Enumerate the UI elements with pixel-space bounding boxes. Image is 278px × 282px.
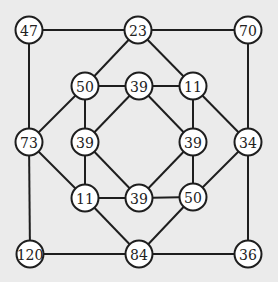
node-label: 39 (76, 135, 94, 151)
node-label: 73 (20, 135, 38, 151)
node-label: 120 (17, 247, 44, 263)
node-outer-tm: 23 (125, 17, 152, 44)
node-label: 39 (130, 79, 148, 95)
node-label: 50 (184, 190, 202, 206)
node-label: 36 (239, 247, 257, 263)
node-outer-bl: 120 (17, 241, 44, 268)
node-outer-tl: 47 (16, 17, 43, 44)
node-label: 47 (20, 23, 38, 39)
node-label: 39 (184, 135, 202, 151)
node-inner-ml: 39 (72, 129, 99, 156)
node-inner-br: 50 (180, 184, 207, 211)
node-outer-tr: 70 (235, 17, 262, 44)
node-label: 11 (184, 79, 202, 95)
edge-outer-ml-outer-bl (29, 142, 30, 254)
node-label: 11 (76, 191, 94, 207)
node-outer-bm: 84 (126, 241, 153, 268)
node-inner-bl: 11 (72, 185, 99, 212)
node-label: 34 (239, 135, 257, 151)
node-label: 70 (239, 23, 257, 39)
node-inner-mr: 39 (180, 129, 207, 156)
node-inner-bm: 39 (126, 185, 153, 212)
node-inner-tm: 39 (126, 73, 153, 100)
number-graph-diagram: 472370733412084365039113939113950 (0, 0, 278, 282)
node-outer-br: 36 (235, 241, 262, 268)
node-label: 50 (76, 79, 94, 95)
nodes-layer: 472370733412084365039113939113950 (16, 17, 262, 268)
node-outer-ml: 73 (16, 129, 43, 156)
node-inner-tl: 50 (72, 73, 99, 100)
node-label: 23 (129, 23, 147, 39)
edges-layer (29, 30, 248, 254)
node-outer-mr: 34 (235, 129, 262, 156)
node-inner-tr: 11 (180, 73, 207, 100)
node-label: 39 (130, 191, 148, 207)
node-label: 84 (130, 247, 148, 263)
